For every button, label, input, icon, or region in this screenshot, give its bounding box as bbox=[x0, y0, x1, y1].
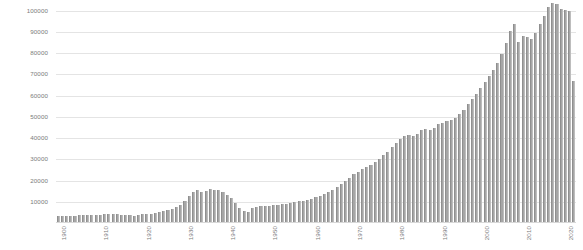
plot-area bbox=[56, 0, 576, 223]
x-axis-tick-label: 2010 bbox=[526, 226, 532, 240]
bar-series bbox=[56, 0, 576, 223]
bar bbox=[348, 178, 351, 223]
x-axis-tick-label: 1920 bbox=[146, 226, 152, 240]
y-axis-tick-label: 60000 bbox=[30, 92, 48, 98]
bar bbox=[543, 16, 546, 223]
bar bbox=[399, 139, 402, 223]
bar bbox=[445, 121, 448, 223]
bar bbox=[352, 174, 355, 223]
bar bbox=[217, 190, 220, 223]
bar bbox=[416, 134, 419, 223]
bar bbox=[196, 190, 199, 223]
bar bbox=[522, 36, 525, 223]
bar bbox=[496, 63, 499, 223]
y-axis-tick-label: 10000 bbox=[30, 199, 48, 205]
bar bbox=[467, 104, 470, 223]
bar bbox=[276, 205, 279, 223]
bar bbox=[268, 206, 271, 223]
bar bbox=[200, 192, 203, 223]
bar bbox=[192, 192, 195, 223]
y-axis-tick-label: 30000 bbox=[30, 156, 48, 162]
x-axis: 1900191019201930194019501960197019801990… bbox=[56, 224, 576, 250]
bar bbox=[572, 81, 575, 223]
bar bbox=[209, 189, 212, 223]
x-axis-tick-label: 1900 bbox=[61, 226, 67, 240]
bar bbox=[479, 88, 482, 223]
bar bbox=[391, 147, 394, 223]
bar bbox=[331, 190, 334, 223]
y-axis-tick-label: 100000 bbox=[27, 8, 48, 14]
bar bbox=[281, 204, 284, 223]
x-axis-tick-label: 1930 bbox=[188, 226, 194, 240]
bar bbox=[475, 94, 478, 223]
bar bbox=[327, 192, 330, 223]
bar bbox=[454, 118, 457, 223]
bar bbox=[226, 195, 229, 223]
bar bbox=[429, 130, 432, 223]
bar bbox=[374, 162, 377, 223]
axis-baseline bbox=[56, 222, 576, 223]
bar bbox=[289, 203, 292, 223]
bar bbox=[205, 191, 208, 223]
bar bbox=[378, 159, 381, 223]
bar bbox=[458, 114, 461, 223]
x-axis-tick-label: 2020 bbox=[568, 226, 574, 240]
bar bbox=[505, 43, 508, 223]
bar bbox=[488, 76, 491, 223]
x-axis-tick-label: 1980 bbox=[399, 226, 405, 240]
bar bbox=[547, 7, 550, 223]
x-axis-tick-label: 1940 bbox=[230, 226, 236, 240]
y-axis-tick-label: 90000 bbox=[30, 29, 48, 35]
y-axis: 1000020000300004000050000600007000080000… bbox=[0, 0, 56, 250]
bar bbox=[255, 207, 258, 223]
bar bbox=[336, 187, 339, 223]
bar bbox=[306, 200, 309, 223]
y-axis-tick-label: 20000 bbox=[30, 177, 48, 183]
bar bbox=[230, 198, 233, 223]
bar bbox=[407, 135, 410, 223]
bar bbox=[175, 207, 178, 223]
bar bbox=[441, 123, 444, 223]
y-axis-tick-label: 50000 bbox=[30, 114, 48, 120]
bar bbox=[179, 205, 182, 223]
bar bbox=[344, 181, 347, 223]
bar bbox=[555, 4, 558, 223]
bar bbox=[310, 199, 313, 223]
bar bbox=[314, 197, 317, 223]
bar bbox=[293, 202, 296, 223]
bar bbox=[221, 192, 224, 223]
bar bbox=[509, 31, 512, 223]
bar bbox=[272, 205, 275, 223]
bar bbox=[302, 201, 305, 224]
bar bbox=[264, 206, 267, 223]
bar bbox=[412, 136, 415, 224]
bar bbox=[323, 194, 326, 223]
bar bbox=[420, 130, 423, 223]
bar bbox=[213, 190, 216, 223]
bar bbox=[183, 201, 186, 223]
bar bbox=[568, 11, 571, 223]
bar bbox=[298, 201, 301, 223]
y-axis-tick-label: 80000 bbox=[30, 50, 48, 56]
x-axis-tick-label: 1950 bbox=[272, 226, 278, 240]
bar bbox=[424, 129, 427, 223]
bar bbox=[251, 208, 254, 223]
bar bbox=[403, 136, 406, 223]
bar bbox=[395, 143, 398, 223]
bar bbox=[365, 167, 368, 223]
bar bbox=[437, 124, 440, 223]
bar bbox=[471, 99, 474, 223]
bar bbox=[386, 152, 389, 223]
bar bbox=[340, 184, 343, 223]
bar bbox=[526, 37, 529, 223]
bar bbox=[382, 155, 385, 223]
bar bbox=[539, 24, 542, 223]
bar bbox=[484, 82, 487, 223]
bar bbox=[462, 110, 465, 223]
bar bbox=[234, 203, 237, 223]
bar bbox=[530, 39, 533, 223]
bar bbox=[357, 172, 360, 223]
bar bbox=[361, 169, 364, 223]
x-axis-tick-label: 1970 bbox=[357, 226, 363, 240]
y-axis-tick-label: 40000 bbox=[30, 135, 48, 141]
